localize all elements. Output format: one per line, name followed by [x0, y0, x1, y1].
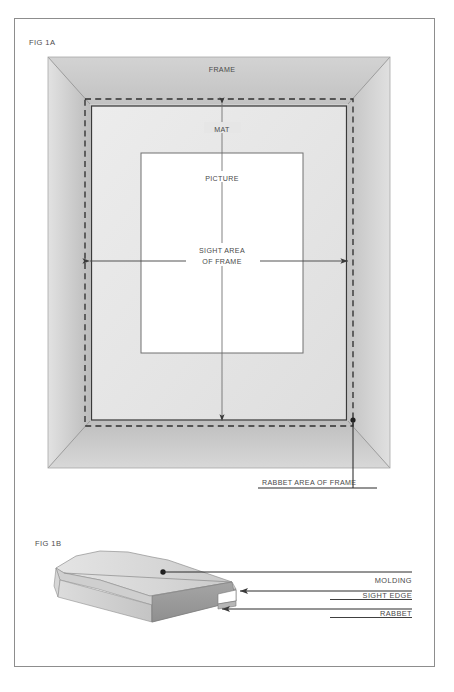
diagram-svg: FIG 1A: [0, 0, 454, 692]
page-canvas: FIG 1A: [0, 0, 454, 692]
picture-label: PICTURE: [205, 175, 239, 183]
frame-face-right: [348, 57, 390, 468]
rabbet-area-label: RABBET AREA OF FRAME: [262, 479, 356, 487]
frame-label: FRAME: [209, 66, 236, 74]
figure-1a: FIG 1A: [29, 38, 390, 488]
mat-label: MAT: [214, 126, 230, 134]
fig-1b-label: FIG 1B: [35, 539, 61, 548]
sight-area-label-line1: SIGHT AREA: [199, 247, 245, 255]
sight-edge-label: SIGHT EDGE: [363, 591, 412, 600]
fig-1a-label: FIG 1A: [29, 38, 56, 47]
frame-face-bottom: [48, 421, 390, 468]
sight-area-label-line2: OF FRAME: [202, 258, 241, 266]
frame-face-top: [48, 57, 390, 104]
figure-1b: FIG 1B MOLDING: [35, 539, 412, 622]
rabbet-label: RABBET: [380, 609, 412, 618]
molding-label: MOLDING: [375, 576, 412, 585]
frame-face-left: [48, 57, 90, 468]
